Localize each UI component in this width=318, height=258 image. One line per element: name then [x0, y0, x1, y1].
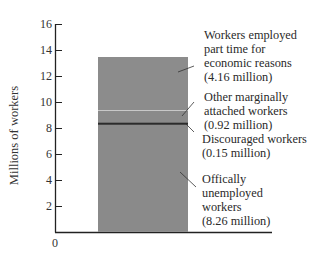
annotation-marginal: Other marginally attached workers (0.92 … — [204, 90, 288, 132]
y-tick-label: 12 — [32, 70, 52, 82]
bar-segment-part-time — [98, 57, 188, 111]
y-tick-label: 4 — [32, 174, 52, 186]
y-tick-label: 16 — [32, 18, 52, 30]
bar-segment-marginal — [98, 111, 188, 123]
y-tick-label: 6 — [32, 148, 52, 160]
annotation-unemployed: Offically unemployed workers (8.26 milli… — [202, 172, 270, 228]
bar-segment-unemployed — [98, 125, 188, 232]
bar-segment-discouraged — [98, 123, 188, 125]
origin-label: 0 — [52, 236, 58, 251]
y-tick-label: 8 — [32, 122, 52, 134]
y-tick-label: 14 — [32, 44, 52, 56]
annotation-discouraged: Discouraged workers (0.15 million) — [202, 132, 307, 160]
y-tick-label: 10 — [32, 96, 52, 108]
y-tick-label: 2 — [32, 200, 52, 212]
annotation-part-time: Workers employed part time for economic … — [204, 28, 297, 84]
